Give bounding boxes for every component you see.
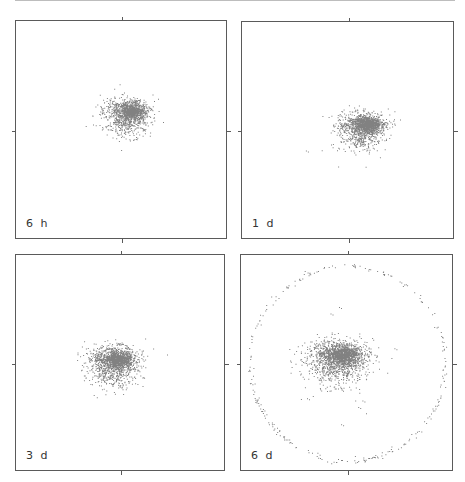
panel-label: 1 d <box>252 217 275 230</box>
tick-mark-right <box>227 131 231 132</box>
tick-mark-top <box>349 18 350 22</box>
tick-mark-left <box>237 364 241 365</box>
tick-mark-top <box>122 17 123 21</box>
top-rule <box>15 0 455 1</box>
tick-mark-left <box>238 131 242 132</box>
scatter-panel-3d: 3 d <box>15 254 225 471</box>
tick-mark-left <box>12 131 16 132</box>
tick-mark-right <box>225 364 229 365</box>
tick-mark-bottom <box>349 239 350 243</box>
tick-mark-bottom <box>122 239 123 243</box>
tick-mark-left <box>12 364 16 365</box>
tick-mark-bottom <box>121 471 122 475</box>
panel-label: 3 d <box>26 449 49 462</box>
scatter-points <box>241 255 454 472</box>
scatter-panel-1d: 1 d <box>241 21 454 239</box>
panel-label: 6 d <box>251 449 274 462</box>
scatter-points <box>16 255 226 472</box>
scatter-points <box>242 22 455 240</box>
tick-mark-right <box>453 364 457 365</box>
panel-label: 6 h <box>26 217 49 230</box>
tick-mark-bottom <box>348 471 349 475</box>
tick-mark-right <box>454 131 458 132</box>
scatter-panel-6h: 6 h <box>15 20 227 239</box>
scatter-panel-6d: 6 d <box>240 254 453 471</box>
tick-mark-top <box>121 251 122 255</box>
tick-mark-top <box>348 251 349 255</box>
scatter-points <box>16 21 228 240</box>
